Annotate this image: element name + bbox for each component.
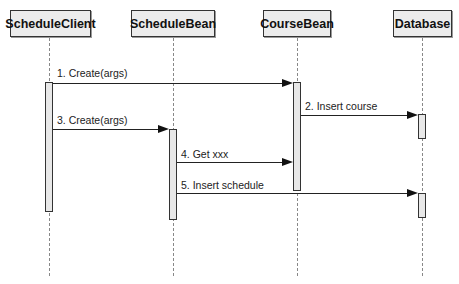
- message-3-label: 3. Create(args): [57, 114, 128, 126]
- activation-database-2: [418, 193, 426, 218]
- activation-schedule-client: [45, 82, 53, 212]
- message-2-label: 2. Insert course: [305, 100, 377, 112]
- message-1-label: 1. Create(args): [57, 67, 128, 79]
- message-3-line: [53, 129, 159, 130]
- participant-database: Database: [393, 10, 452, 37]
- message-1-arrowhead-icon: [282, 79, 293, 87]
- message-5-label: 5. Insert schedule: [181, 179, 264, 191]
- message-4-label: 4. Get xxx: [181, 148, 228, 160]
- message-5-arrowhead-icon: [407, 189, 418, 197]
- message-4-arrowhead-icon: [282, 158, 293, 166]
- participant-schedule-client: ScheduleClient: [10, 10, 91, 37]
- lifeline-database: [422, 38, 423, 276]
- activation-schedule-bean: [169, 129, 177, 220]
- message-1-line: [53, 83, 283, 84]
- message-2-arrowhead-icon: [407, 111, 418, 119]
- message-2-line: [301, 115, 408, 116]
- participant-schedule-bean: ScheduleBean: [131, 10, 215, 37]
- message-5-line: [177, 193, 408, 194]
- message-3-arrowhead-icon: [158, 125, 169, 133]
- participant-course-bean: CourseBean: [263, 10, 331, 37]
- message-4-line: [177, 162, 283, 163]
- activation-course-bean: [293, 82, 301, 191]
- activation-database-1: [418, 114, 426, 139]
